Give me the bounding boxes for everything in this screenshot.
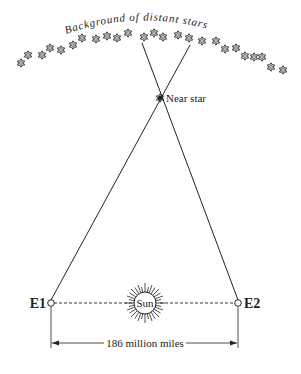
distant-star-icon — [24, 51, 31, 59]
distant-star-icon — [174, 31, 181, 39]
distant-stars — [17, 29, 286, 74]
distant-star-icon — [69, 41, 76, 49]
distant-star-icon — [78, 34, 85, 42]
distant-star-icon — [250, 53, 257, 61]
distant-star-icon — [103, 32, 110, 40]
distant-star-icon — [57, 46, 64, 54]
sight-line-e2 — [142, 43, 238, 300]
near-star-label: Near star — [166, 92, 206, 104]
earth-label-e1: E1 — [30, 296, 46, 311]
sight-line-e1 — [51, 45, 190, 300]
arrow-left-icon — [52, 341, 59, 346]
parallax-diagram: Background of distant stars Ne — [0, 0, 301, 374]
distant-star-icon — [198, 37, 205, 45]
distant-star-icon — [124, 29, 131, 37]
distant-star-icon — [279, 66, 286, 74]
sun-label: Sun — [136, 297, 154, 309]
distant-star-icon — [221, 45, 228, 53]
distant-star-icon — [258, 53, 265, 61]
distant-stars-label: Background of distant stars — [63, 10, 210, 35]
distant-star-icon — [140, 33, 147, 41]
earth-label-e2: E2 — [244, 296, 260, 311]
distant-star-icon — [267, 63, 274, 71]
distant-star-icon — [92, 35, 99, 43]
arrow-right-icon — [230, 341, 237, 346]
distant-star-icon — [150, 29, 157, 37]
distant-star-icon — [159, 33, 166, 41]
distant-star-icon — [232, 44, 239, 52]
distant-star-icon — [17, 59, 24, 67]
distance-label: 186 million miles — [106, 337, 184, 349]
distant-star-icon — [241, 52, 248, 60]
distant-star-icon — [185, 34, 192, 42]
distant-star-icon — [38, 51, 45, 59]
earth-position-e1-icon — [48, 300, 55, 307]
earth-position-e2-icon — [235, 300, 242, 307]
distant-star-icon — [212, 37, 219, 45]
distant-star-icon — [113, 34, 120, 42]
distant-star-icon — [46, 44, 53, 52]
